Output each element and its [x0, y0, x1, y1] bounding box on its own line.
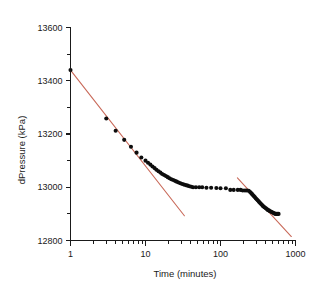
- data-point: [122, 138, 126, 142]
- data-point: [129, 145, 133, 149]
- x-tick-label: 100: [213, 249, 228, 259]
- y-axis-title: dPressure (kPa): [16, 116, 27, 185]
- data-point: [214, 186, 218, 190]
- y-tick-label: 12800: [37, 236, 62, 246]
- data-point: [209, 186, 213, 190]
- data-point: [232, 188, 236, 192]
- data-point: [135, 151, 139, 155]
- data-point: [218, 186, 222, 190]
- chart-plot-svg: 12800130001320013400136001101001000 dPre…: [0, 0, 328, 292]
- data-point: [114, 129, 118, 133]
- data-point: [277, 212, 281, 216]
- fit-lines-group: [71, 70, 292, 236]
- y-tick-label: 13200: [37, 129, 62, 139]
- y-tick-label: 13400: [37, 76, 62, 86]
- early-time-fit-line: [71, 70, 185, 216]
- x-tick-label: 1000: [285, 249, 305, 259]
- x-tick-label: 10: [140, 249, 150, 259]
- data-point: [104, 117, 108, 121]
- data-point: [204, 186, 208, 190]
- data-point: [200, 185, 204, 189]
- axes-group: [66, 28, 296, 246]
- data-points-group: [68, 68, 280, 216]
- y-tick-label: 13600: [37, 23, 62, 33]
- x-axis-title: Time (minutes): [154, 268, 217, 279]
- data-point: [139, 155, 143, 159]
- tick-labels-group: 12800130001320013400136001101001000: [37, 23, 305, 259]
- y-tick-label: 13000: [37, 182, 62, 192]
- chart-container: 12800130001320013400136001101001000 dPre…: [0, 0, 328, 292]
- data-point: [224, 186, 228, 190]
- x-tick-label: 1: [68, 249, 73, 259]
